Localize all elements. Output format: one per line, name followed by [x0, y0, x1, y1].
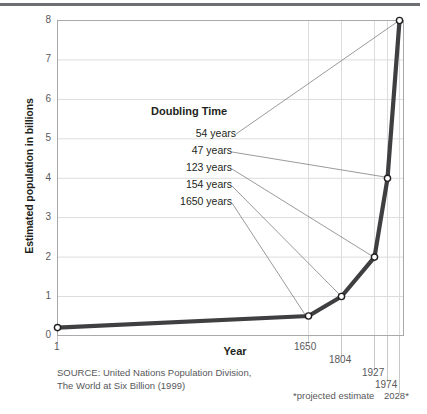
- y-tick-1: 1: [33, 290, 51, 301]
- legend-item-47-years: 47 years: [116, 144, 232, 156]
- y-tick-0: 0: [33, 329, 51, 340]
- legend-title: Doubling Time: [151, 105, 227, 117]
- horizontal-gridlines: [57, 21, 404, 297]
- x-tick-1974: 1974: [375, 379, 397, 390]
- y-tick-5: 5: [33, 132, 51, 143]
- legend-item-1650-years: 1650 years: [116, 195, 232, 207]
- data-point-year-1: [54, 325, 60, 331]
- data-point-year-1804: [338, 293, 344, 299]
- population-growth-chart-figure: Estimated population in billions 8 7 6 5…: [0, 0, 427, 414]
- population-series-line: [58, 21, 400, 328]
- x-tick-2028: 2028*: [384, 390, 409, 401]
- y-tick-8: 8: [33, 14, 51, 25]
- source-credit: SOURCE: United Nations Population Divisi…: [57, 366, 251, 392]
- data-point-year-2028: [396, 17, 402, 23]
- legend-item-54-years: 54 years: [120, 127, 236, 139]
- x-tick-1: 1: [54, 341, 60, 352]
- y-tick-4: 4: [33, 172, 51, 183]
- annotation-leader-lines: [232, 22, 397, 316]
- legend-item-154-years: 154 years: [116, 178, 232, 190]
- data-point-year-1927: [371, 254, 377, 260]
- legend-item-123-years: 123 years: [116, 161, 232, 173]
- y-tick-3: 3: [33, 211, 51, 222]
- x-axis-title: Year: [180, 345, 290, 357]
- x-tick-1804: 1804: [329, 354, 351, 365]
- source-line-2: The World at Six Billion (1999): [57, 379, 251, 392]
- y-tick-6: 6: [33, 93, 51, 104]
- data-point-year-1650: [305, 313, 311, 319]
- data-point-year-1974: [384, 175, 390, 181]
- projected-estimate-note: *projected estimate: [293, 390, 374, 401]
- y-tick-2: 2: [33, 251, 51, 262]
- x-tick-1650: 1650: [294, 341, 316, 352]
- source-line-1: SOURCE: United Nations Population Divisi…: [57, 366, 251, 379]
- x-tick-1927: 1927: [362, 367, 384, 378]
- y-tick-7: 7: [33, 53, 51, 64]
